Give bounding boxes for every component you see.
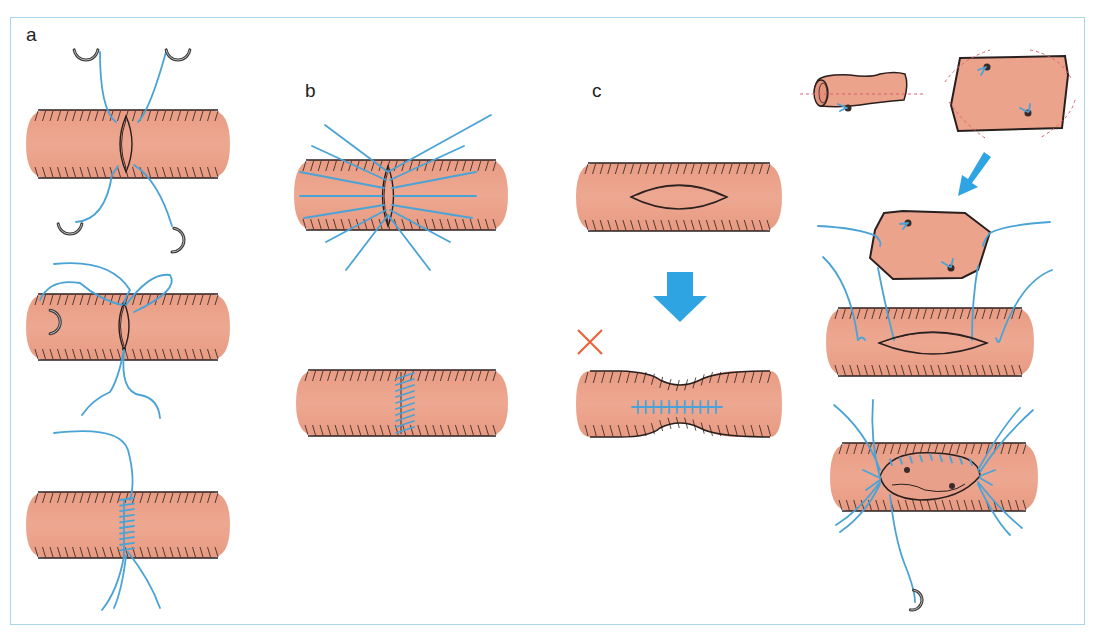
panel-a-vessel-2 xyxy=(26,294,230,360)
needle-icon xyxy=(58,224,82,234)
vessel-body xyxy=(26,492,230,558)
panel-a-suture-3-l xyxy=(102,556,124,610)
diagonal-arrow-icon xyxy=(958,152,991,196)
vessel-body xyxy=(576,163,782,231)
panel-a-suture-3-r xyxy=(128,552,160,608)
panel-a-suture-3-m xyxy=(114,556,126,608)
diagram-canvas xyxy=(0,0,1100,632)
opened-vein-patch xyxy=(945,50,1075,138)
ligated-branch-icon xyxy=(949,483,955,489)
needle-icon xyxy=(166,50,190,60)
panel-b-vessel-2 xyxy=(296,370,508,436)
panel-d-vessel-recipient xyxy=(826,308,1034,376)
patch-suture-right-top xyxy=(983,222,1050,246)
vein-segment xyxy=(800,73,925,112)
panel-a-suture-2e xyxy=(123,352,160,418)
patch-sheet xyxy=(951,56,1068,131)
down-arrow-icon xyxy=(653,272,707,322)
panel-a-vessel-3 xyxy=(26,492,230,558)
panel-a-suture-3-top xyxy=(54,431,133,500)
panel-c-vessel-2-stenotic xyxy=(576,371,782,437)
trimmed-patch xyxy=(870,211,990,279)
patch-suture-left-top xyxy=(818,226,881,246)
needle-icon xyxy=(74,50,98,60)
needle-icon xyxy=(910,590,922,610)
panel-c-vessel-1 xyxy=(576,163,782,231)
ligated-branch-icon xyxy=(904,467,910,473)
needle-icon xyxy=(172,228,184,252)
incorrect-mark-icon xyxy=(578,330,602,354)
vessel-body xyxy=(26,294,230,360)
panel-b-vessel-1 xyxy=(294,160,508,230)
